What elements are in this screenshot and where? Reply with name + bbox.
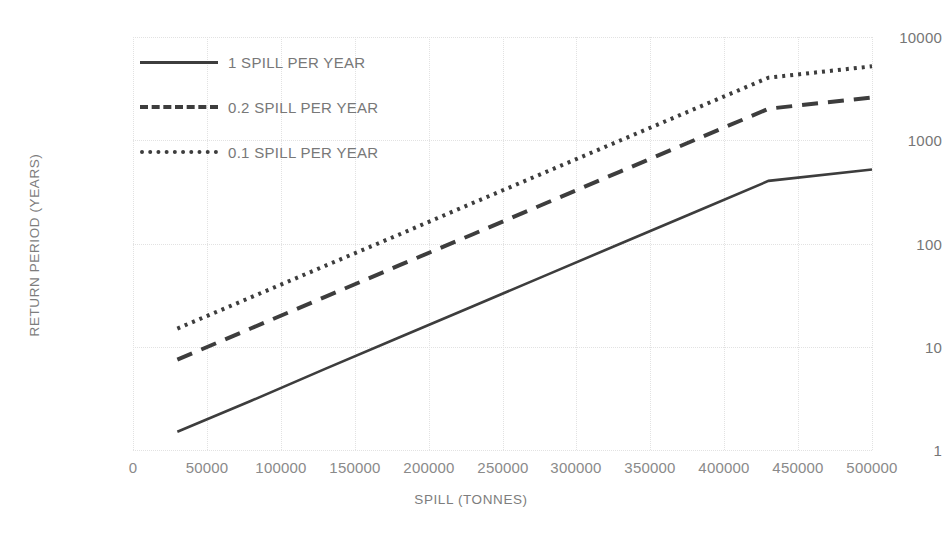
- gridline-vertical: [872, 37, 873, 450]
- legend-item: 0.1 SPILL PER YEAR: [140, 140, 440, 164]
- legend-item: 0.2 SPILL PER YEAR: [140, 95, 440, 119]
- x-tick-label: 500000: [812, 459, 932, 476]
- legend-swatch-solid-icon: [140, 61, 218, 64]
- x-axis-title: SPILL (TONNES): [0, 492, 942, 507]
- legend-swatch-dashed-icon: [140, 105, 218, 109]
- legend-item-label: 0.2 SPILL PER YEAR: [228, 99, 378, 116]
- y-axis-title: RETURN PERIOD (YEARS): [27, 154, 42, 337]
- legend-item-label: 0.1 SPILL PER YEAR: [228, 144, 378, 161]
- legend-item-label: 1 SPILL PER YEAR: [228, 54, 365, 71]
- chart-figure: 10000 1000 100 10 1 RETURN PERIOD (YEARS…: [0, 0, 942, 545]
- chart-legend: 1 SPILL PER YEAR 0.2 SPILL PER YEAR 0.1 …: [140, 44, 440, 172]
- series-line: [177, 170, 872, 432]
- gridline-horizontal: [133, 450, 872, 451]
- legend-swatch-dotted-icon: [140, 150, 218, 154]
- legend-item: 1 SPILL PER YEAR: [140, 50, 440, 74]
